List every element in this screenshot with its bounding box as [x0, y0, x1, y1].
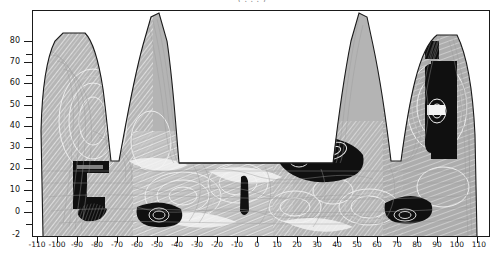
y-label-50: 50 [0, 101, 20, 109]
y-tick-60 [24, 83, 32, 84]
y-tick-65 [26, 75, 32, 76]
y-label-70: 70 [0, 58, 20, 66]
y-label-10: 10 [0, 186, 20, 194]
y-tick-20 [24, 168, 32, 169]
y-tick-50 [24, 105, 32, 106]
y-tick-0 [24, 212, 32, 213]
y-tick-40 [24, 126, 32, 127]
y-tick-10 [24, 190, 32, 191]
y-tick-45 [26, 117, 32, 118]
y-label-30: 30 [0, 143, 20, 151]
y-tick-minor-low [26, 224, 32, 225]
y-label-0: 0 [0, 208, 20, 216]
y-label-bottom: -2 [0, 231, 20, 239]
y-tick-35 [26, 138, 32, 139]
plot-area [32, 10, 490, 237]
y-label-60: 60 [0, 79, 20, 87]
y-tick-70 [24, 62, 32, 63]
y-tick-80 [24, 41, 32, 42]
y-tick-30 [24, 147, 32, 148]
x-label-110: 110 [466, 241, 492, 249]
chart-title: ( . . . ) [0, 0, 504, 2]
y-tick-25 [26, 159, 32, 160]
y-tick-75 [26, 54, 32, 55]
y-tick-5 [26, 201, 32, 202]
figure-root: ( . . . ) [0, 0, 504, 260]
y-label-20: 20 [0, 164, 20, 172]
y-label-80: 80 [0, 37, 20, 45]
y-tick-15 [26, 180, 32, 181]
contour-plot [33, 11, 489, 236]
y-label-40: 40 [0, 122, 20, 130]
y-tick-55 [26, 96, 32, 97]
